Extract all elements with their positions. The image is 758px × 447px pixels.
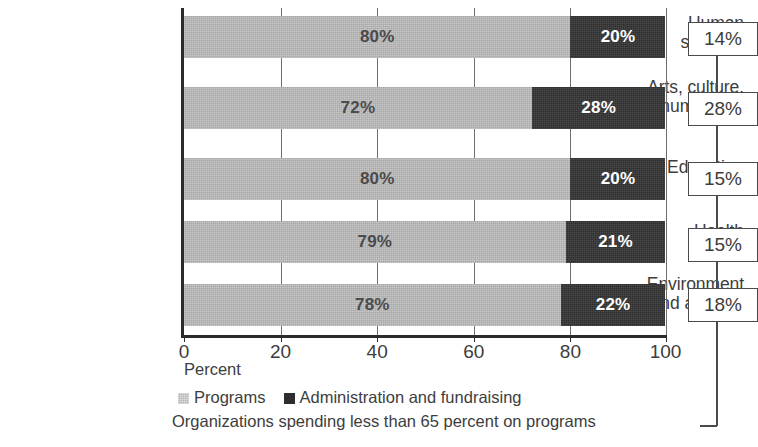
bar-value-label: 80%: [360, 27, 395, 47]
bar-value-label: 28%: [581, 98, 616, 118]
bar-value-label: 22%: [596, 295, 631, 315]
legend-label-admin: Administration and fundraising: [300, 388, 522, 406]
callout-connector-4: [716, 262, 718, 288]
bar-value-label: 78%: [355, 295, 390, 315]
legend: ProgramsAdministration and fundraising: [178, 388, 522, 407]
callout-box-health: 15%: [688, 228, 758, 262]
bar-value-label: 72%: [341, 98, 376, 118]
callout-connector-2: [716, 126, 718, 162]
x-tick-label-20: 20: [251, 341, 311, 363]
table-row: 79% 21%: [184, 221, 667, 263]
x-axis-title: Percent: [184, 360, 241, 379]
bar-value-label: 80%: [360, 169, 395, 189]
legend-label-programs: Programs: [194, 388, 266, 406]
callout-connector-tail: [716, 322, 718, 426]
bar-segment-admin: 22%: [561, 284, 666, 326]
callout-connector-elbow: [700, 425, 717, 427]
x-tick-label-100: 100: [636, 341, 696, 363]
x-tick-label-80: 80: [540, 341, 600, 363]
callout-box-environment-animals: 18%: [688, 288, 758, 322]
x-tick-label-40: 40: [347, 341, 407, 363]
legend-swatch-programs-icon: [178, 393, 189, 404]
bar-value-label: 21%: [598, 232, 633, 252]
bar-segment-admin: 28%: [532, 87, 666, 129]
bar-segment-admin: 21%: [566, 221, 666, 263]
bar-value-label: 79%: [357, 232, 392, 252]
plot-area: 0 20 40 60 80 100 80% 20% 72% 28%: [184, 8, 667, 335]
legend-swatch-admin-icon: [284, 393, 295, 404]
x-tick-label-60: 60: [444, 341, 504, 363]
table-row: 80% 20%: [184, 16, 667, 58]
bar-segment-admin: 20%: [570, 158, 665, 200]
x-axis-line: [181, 335, 667, 338]
callout-box-human-services: 14%: [688, 22, 758, 56]
bar-value-label: 20%: [601, 169, 636, 189]
bar-segment-programs: 79%: [184, 221, 566, 263]
bar-segment-programs: 72%: [184, 87, 532, 129]
footnote-text: Organizations spending less than 65 perc…: [172, 412, 596, 431]
table-row: 78% 22%: [184, 284, 667, 326]
bar-segment-programs: 80%: [184, 16, 570, 58]
callout-connector-3: [716, 196, 718, 228]
callout-connector-1: [716, 56, 718, 92]
bar-segment-admin: 20%: [570, 16, 665, 58]
callout-box-arts-culture: 28%: [688, 92, 758, 126]
table-row: 72% 28%: [184, 87, 667, 129]
callout-box-education: 15%: [688, 162, 758, 196]
bar-segment-programs: 78%: [184, 284, 561, 326]
bar-value-label: 20%: [601, 27, 636, 47]
table-row: 80% 20%: [184, 158, 667, 200]
bar-segment-programs: 80%: [184, 158, 570, 200]
